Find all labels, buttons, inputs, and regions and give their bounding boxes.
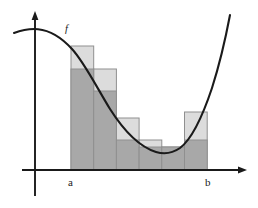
x-axis-arrowhead-icon: [238, 167, 247, 174]
riemann-sum-figure: f a b: [0, 0, 258, 208]
figure-canvas: f a b: [0, 0, 258, 208]
curve-label-f: f: [65, 23, 70, 34]
lower-rectangle-1: [71, 69, 94, 170]
lower-rectangle-5: [162, 147, 185, 170]
x-axis-label-b: b: [205, 176, 211, 188]
lower-rectangle-2: [94, 91, 117, 170]
x-axis-label-a: a: [68, 176, 73, 188]
lower-rectangle-3: [116, 140, 139, 170]
y-axis-arrowhead-icon: [32, 11, 39, 20]
lower-rectangle-6: [185, 140, 208, 170]
